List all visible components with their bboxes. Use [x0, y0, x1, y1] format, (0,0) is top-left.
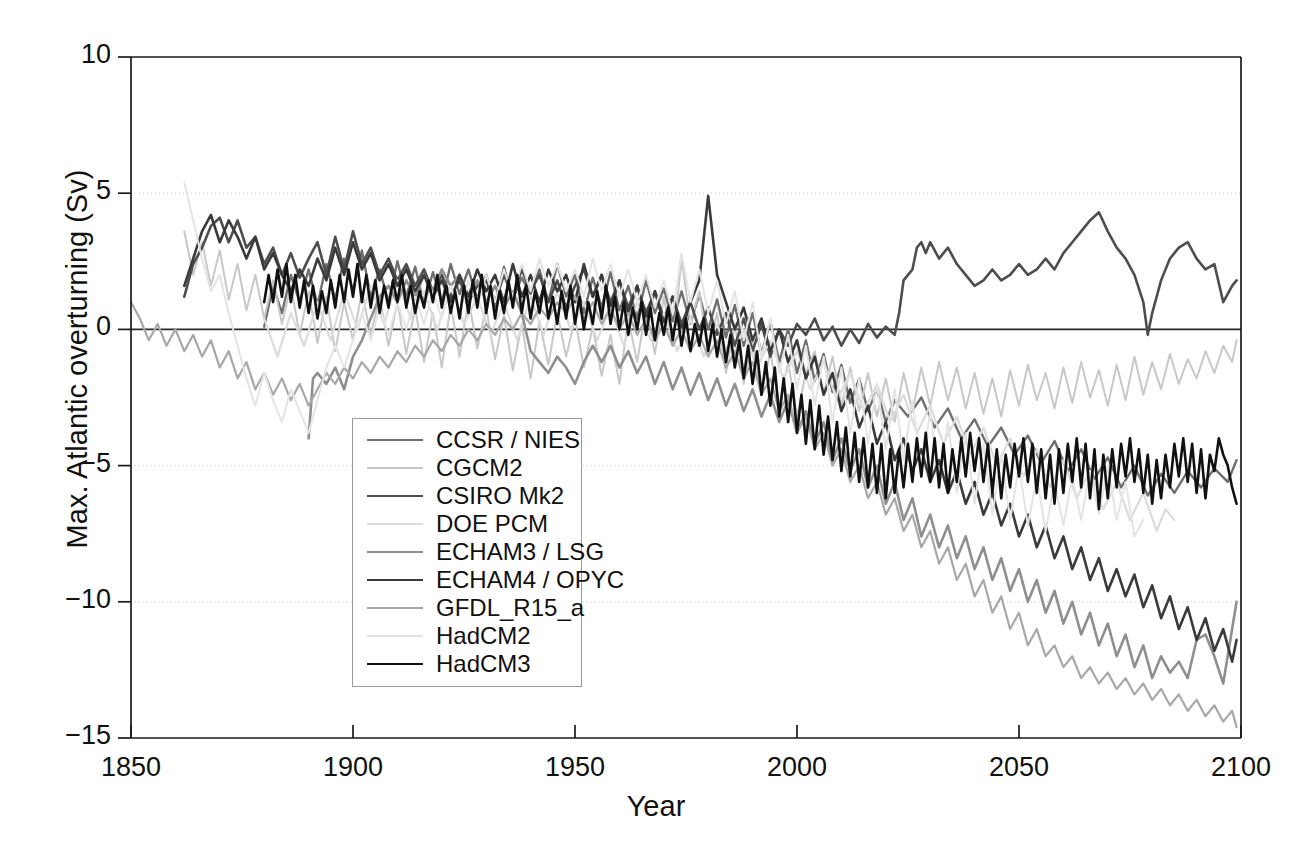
x-tick-label: 1900	[318, 752, 388, 783]
legend-item[interactable]: HadCM2	[353, 622, 581, 650]
chart-legend: CCSR / NIESCGCM2CSIRO Mk2DOE PCMECHAM3 /…	[352, 418, 582, 687]
legend-line-swatch	[367, 495, 423, 497]
y-tick-label: 5	[96, 175, 111, 206]
gridlines-group	[131, 193, 1241, 602]
x-axis-label: Year	[0, 790, 1312, 823]
x-tick-label: 1950	[540, 752, 610, 783]
legend-line-swatch	[367, 551, 423, 553]
y-axis-label-wrapper: Max. Atlantic overturning (Sv)	[0, 0, 80, 740]
legend-item-label: ECHAM3 / LSG	[436, 540, 604, 564]
legend-line-swatch	[367, 467, 423, 469]
legend-item-label: CSIRO Mk2	[436, 484, 564, 508]
x-tick-label: 2050	[984, 752, 1054, 783]
legend-item[interactable]: DOE PCM	[353, 510, 581, 538]
legend-line-swatch	[367, 579, 423, 581]
legend-item-label: ECHAM4 / OPYC	[436, 568, 624, 592]
legend-line-swatch	[367, 635, 423, 637]
y-tick-label: 0	[96, 311, 111, 342]
legend-line-swatch	[367, 663, 423, 665]
legend-item[interactable]: GFDL_R15_a	[353, 594, 581, 622]
plot-canvas	[0, 0, 1312, 852]
series-lines-group	[131, 182, 1237, 727]
legend-item-label: DOE PCM	[436, 512, 548, 536]
series-line	[131, 297, 1237, 727]
x-tick-label: 2000	[762, 752, 832, 783]
series-line	[184, 196, 1236, 662]
chart-figure: 1050−5−10−15 185019001950200020502100 Ma…	[0, 0, 1312, 852]
legend-item[interactable]: ECHAM3 / LSG	[353, 538, 581, 566]
legend-item-label: CGCM2	[436, 456, 523, 480]
legend-line-swatch	[367, 607, 423, 609]
legend-item-label: HadCM3	[436, 652, 531, 676]
x-tick-label: 1850	[96, 752, 166, 783]
legend-item[interactable]: HadCM3	[353, 650, 581, 678]
legend-line-swatch	[367, 523, 423, 525]
axes-frame-group	[131, 57, 1241, 738]
y-axis-label: Max. Atlantic overturning (Sv)	[61, 9, 94, 709]
legend-line-swatch	[367, 439, 423, 441]
legend-item[interactable]: CSIRO Mk2	[353, 482, 581, 510]
legend-item-label: GFDL_R15_a	[436, 596, 584, 620]
legend-item-label: HadCM2	[436, 624, 531, 648]
legend-item[interactable]: ECHAM4 / OPYC	[353, 566, 581, 594]
legend-item[interactable]: CCSR / NIES	[353, 426, 581, 454]
legend-item[interactable]: CGCM2	[353, 454, 581, 482]
x-tick-label: 2100	[1206, 752, 1276, 783]
legend-item-label: CCSR / NIES	[436, 428, 580, 452]
